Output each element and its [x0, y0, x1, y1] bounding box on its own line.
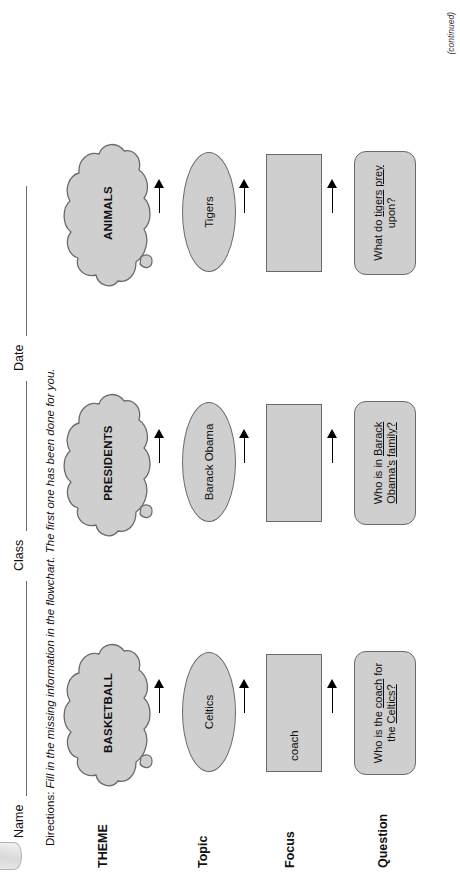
theme-cloud-label: BASKETBALL	[62, 638, 154, 788]
topic-oval-label: Celtics	[203, 695, 215, 730]
topic-oval-basketball[interactable]: Celtics	[182, 652, 236, 772]
arrow-shaft	[244, 188, 246, 213]
topic-oval-label: Barack Obama	[203, 424, 215, 501]
question-text: Who is the coach for the Celtics?	[372, 658, 399, 768]
topic-oval-animals[interactable]: Tigers	[182, 152, 236, 272]
worksheet-canvas: Name Class Date Directions: Fill in the …	[0, 0, 460, 876]
arrow-shaft	[159, 688, 161, 713]
flow-arrow	[154, 429, 164, 463]
flow-arrow	[327, 429, 337, 463]
arrow-shaft	[159, 438, 161, 463]
focus-box-presidents[interactable]	[266, 404, 322, 522]
question-box-presidents[interactable]: Who is in Barack Obama's family?	[354, 401, 416, 525]
flow-column-animals: ANIMALSTigersWhat do tigers prey upon?	[0, 88, 460, 288]
flow-column-presidents: PRESIDENTSBarack ObamaWho is in Barack O…	[0, 338, 460, 538]
theme-cloud-basketball[interactable]: BASKETBALL	[62, 638, 154, 788]
topic-oval-label: Tigers	[203, 196, 215, 228]
theme-cloud-presidents[interactable]: PRESIDENTS	[62, 388, 154, 538]
arrow-head-icon	[154, 429, 164, 438]
theme-cloud-label: ANIMALS	[62, 138, 154, 288]
flow-arrow	[154, 679, 164, 713]
arrow-head-icon	[239, 429, 249, 438]
question-text: Who is in Barack Obama's family?	[372, 408, 399, 518]
flow-column-basketball: BASKETBALLCelticscoachWho is the coach f…	[0, 588, 460, 788]
focus-box-animals[interactable]	[266, 154, 322, 272]
row-label-focus: Focus	[283, 831, 297, 868]
arrow-shaft	[244, 688, 246, 713]
flow-arrow	[239, 429, 249, 463]
flow-arrow	[154, 179, 164, 213]
flow-arrow	[239, 179, 249, 213]
focus-box-basketball[interactable]: coach	[266, 654, 322, 772]
row-label-theme: THEME	[96, 824, 110, 868]
arrow-head-icon	[154, 179, 164, 188]
arrow-shaft	[332, 438, 334, 463]
worksheet-page: Name Class Date Directions: Fill in the …	[0, 0, 460, 876]
class-label: Class	[12, 540, 26, 571]
question-text: What do tigers prey upon?	[372, 158, 399, 268]
question-box-basketball[interactable]: Who is the coach for the Celtics?	[354, 651, 416, 775]
flow-arrow	[327, 679, 337, 713]
row-label-question: Question	[376, 814, 390, 868]
continued-note: (continued)	[446, 12, 456, 55]
arrow-head-icon	[327, 429, 337, 438]
row-label-topic: Topic	[196, 836, 210, 868]
arrow-shaft	[159, 188, 161, 213]
arrow-shaft	[332, 188, 334, 213]
arrow-head-icon	[327, 179, 337, 188]
topic-oval-presidents[interactable]: Barack Obama	[182, 402, 236, 522]
flow-arrow	[327, 179, 337, 213]
question-box-animals[interactable]: What do tigers prey upon?	[354, 151, 416, 275]
arrow-shaft	[244, 438, 246, 463]
name-label: Name	[12, 805, 26, 838]
arrow-head-icon	[239, 679, 249, 688]
arrow-head-icon	[239, 179, 249, 188]
arrow-shaft	[332, 688, 334, 713]
theme-cloud-animals[interactable]: ANIMALS	[62, 138, 154, 288]
theme-cloud-label: PRESIDENTS	[62, 388, 154, 538]
arrow-head-icon	[327, 679, 337, 688]
flow-arrow	[239, 679, 249, 713]
arrow-head-icon	[154, 679, 164, 688]
directions-prefix: Directions:	[44, 792, 56, 846]
focus-box-value: coach	[288, 730, 300, 761]
